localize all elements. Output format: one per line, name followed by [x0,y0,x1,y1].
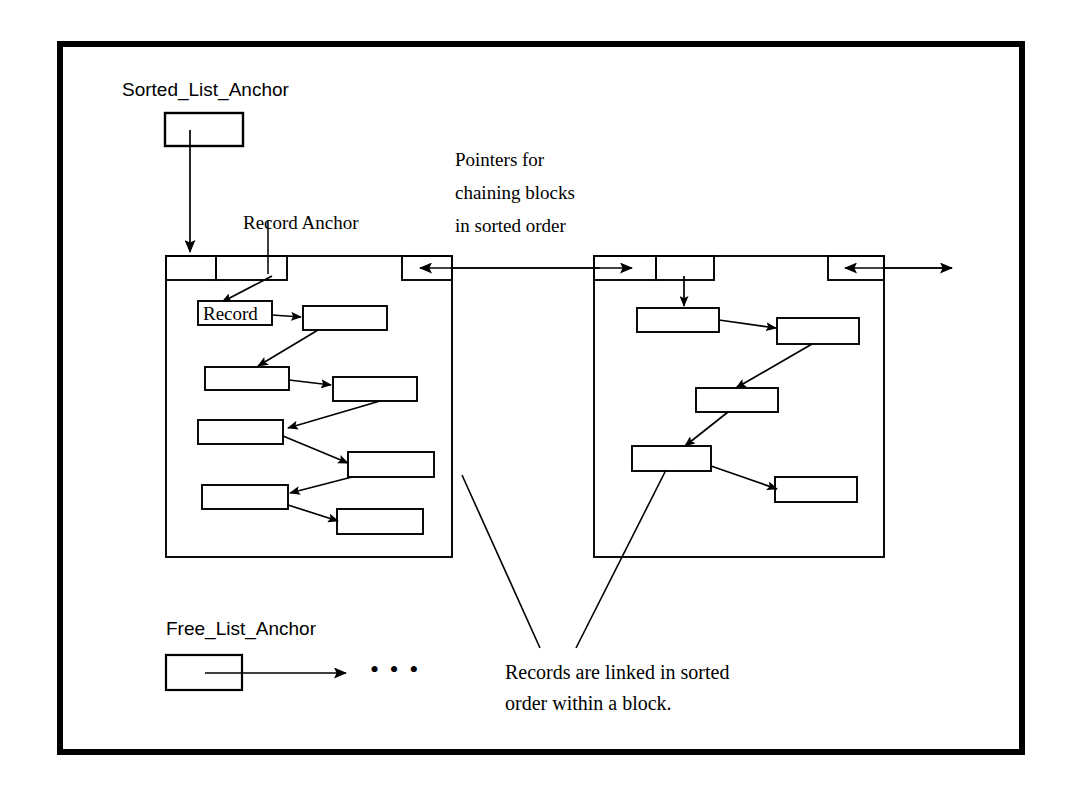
caption-leader-to-block-2 [576,470,666,648]
block-1-record-2 [303,306,387,330]
pointers-note-line-1: Pointers for [455,148,544,172]
block-1-record-1-label: Record [203,303,258,325]
block-1-link-3-4 [289,380,331,385]
block-1-header-cell-2 [216,256,287,280]
sorted-list-anchor-label: Sorted_List_Anchor [122,78,289,102]
block-2-record-5 [775,477,857,502]
block-1-link-5-6 [283,436,348,463]
block-1-link-1-2 [272,315,301,317]
block-2-record-2 [777,318,859,344]
block-2-link-3-4 [685,412,728,446]
block-2-header-cell-2 [656,256,714,280]
block-2-record-1 [637,308,719,332]
caption-leader-to-block-1 [462,475,540,648]
block-1-record-4 [333,377,417,401]
record-anchor-label: Record Anchor [243,211,359,235]
caption-line-2: order within a block. [505,691,672,716]
block-1-record-5 [198,420,283,444]
diagram-canvas: Sorted_List_Anchor Record Anchor Pointer… [0,0,1076,795]
pointers-note-line-3: in sorted order [455,214,566,238]
block-1-link-7-8 [288,505,338,521]
block-1-record-6 [348,452,434,477]
pointers-note-line-2: chaining blocks [455,181,575,205]
block-1-link-6-7 [290,477,352,493]
block-1-record-7 [202,485,288,509]
block-2-link-4-5 [711,466,777,489]
block-1-record-8 [337,509,423,534]
block-1-header-cell-1 [166,256,216,280]
caption-line-1: Records are linked in sorted [505,660,729,685]
block-2-link-2-3 [736,344,812,388]
block-2-record-4 [632,446,711,471]
block-1-record-3 [205,367,289,390]
block-2-link-1-2 [719,320,776,328]
sorted-list-anchor-box [165,113,243,146]
block-1-link-4-5 [288,401,380,428]
free-list-anchor-label: Free_List_Anchor [166,617,316,641]
block-2-record-3 [696,388,778,412]
block-1-link-2-3 [258,330,318,366]
free-list-ellipsis: • • • [370,655,420,685]
